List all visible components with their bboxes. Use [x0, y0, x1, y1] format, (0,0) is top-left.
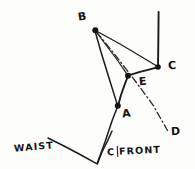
node-dot-a: [115, 103, 121, 109]
cfront-c-text: C: [107, 146, 116, 157]
node-dot-c: [155, 64, 161, 70]
node-dot-b: [92, 27, 98, 33]
cfront-divider-icon: [116, 146, 118, 157]
waist-line: [48, 138, 97, 164]
cfront-front-text: FRONT: [119, 144, 161, 157]
point-label-d: D: [171, 126, 181, 138]
point-label-c: C: [168, 60, 177, 71]
point-label-e: E: [139, 76, 148, 88]
point-label-b: B: [77, 10, 87, 22]
segment-b-to-c: [96, 31, 158, 67]
segment-b-to-a: [95, 32, 117, 106]
sketch-canvas: B C E A D WAIST CFRONT: [0, 0, 195, 169]
segment-a-to-e: [118, 76, 128, 106]
node-dot-e: [125, 73, 131, 79]
vertical-guide-line: [158, 12, 159, 67]
point-label-a: A: [121, 108, 131, 120]
